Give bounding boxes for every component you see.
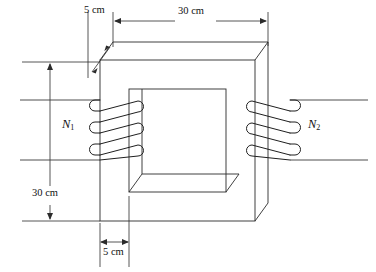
diagram-canvas [0,0,376,272]
primary-winding-label: N1 [62,118,74,131]
secondary-winding-label: N2 [308,118,320,131]
primary-turn-2-back [90,122,101,133]
depth-dimension-arrow [92,47,110,72]
secondary-winding-subscript: 2 [316,123,320,132]
arrowhead-width-right [260,18,267,24]
primary-winding [90,100,144,160]
primary-turn-3-front [100,145,144,160]
arrowhead-height-bottom [47,213,53,220]
primary-winding-subscript: 1 [70,123,74,132]
transformer-core [100,42,268,221]
window-inner-bottom-right-edge [226,174,239,192]
arrowhead-height-top [47,63,53,70]
core-top-right-edge [255,42,268,60]
window-inner-bottom-left-edge [129,174,142,192]
primary-turn-3-back [90,144,101,155]
primary-turn-1-front [100,101,144,122]
dimension-label-limb-width: 5 cm [103,247,124,258]
primary-turn-2-front [100,123,144,144]
arrowhead-limb-left [100,239,107,245]
dimension-label-top-depth: 5 cm [84,5,105,16]
dimension-label-left-height: 30 cm [32,188,58,199]
core-front-face [100,60,255,221]
dimension-lines [22,12,268,267]
dimension-label-top-width: 30 cm [178,6,204,17]
primary-turn-1-back [90,100,101,111]
transformer-core-diagram: 5 cm 30 cm N1 N2 30 cm 5 cm [0,0,376,272]
core-top-left-edge [100,42,113,60]
arrowhead-limb-right [122,239,129,245]
arrowhead-width-left [114,18,121,24]
secondary-turn-3-back [290,144,301,155]
secondary-turn-1-back [290,100,301,111]
secondary-turn-2-back [290,122,301,133]
core-bottom-right-edge [255,203,268,221]
